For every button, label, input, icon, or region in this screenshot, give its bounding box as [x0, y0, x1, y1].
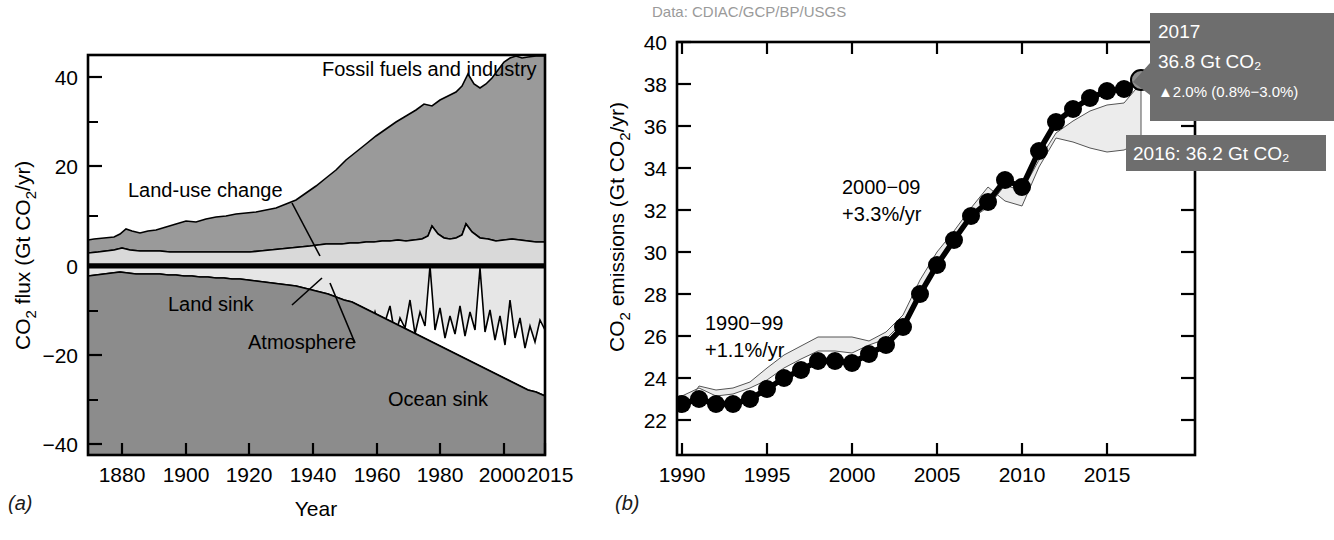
- y-tick-b-0: 22: [644, 409, 667, 432]
- panel-b-y-ticks: [677, 42, 1195, 420]
- label-ocean-sink: Ocean sink: [388, 388, 489, 410]
- panel-a-x-axis-title: Year: [295, 497, 337, 520]
- panel-b-y-tick-labels: 40 38 36 34 32 30 28 26 24 22: [644, 31, 668, 432]
- y-tick-b-6: 34: [644, 157, 668, 180]
- y-tick-a-0: 40: [55, 66, 78, 89]
- y-tick-b-4: 30: [644, 241, 667, 264]
- annotation-2000-09-period: 2000−09: [842, 176, 920, 198]
- x-tick-b-3: 2005: [914, 463, 961, 486]
- panel-a-letter: (a): [8, 492, 32, 515]
- panel-b-letter: (b): [615, 492, 639, 515]
- x-tick-b-1: 1995: [744, 463, 791, 486]
- callout-2016: 2016: 36.2 Gt CO₂: [1126, 135, 1326, 171]
- panel-b-plot-area: [673, 70, 1151, 413]
- y-tick-b-1: 24: [644, 367, 668, 390]
- x-tick-a-2: 1920: [226, 463, 273, 486]
- x-tick-b-0: 1990: [659, 463, 706, 486]
- panel-a-co2-flux: CO2 flux (Gt CO2/yr): [0, 0, 620, 540]
- y-tick-b-8: 38: [644, 73, 667, 96]
- annotation-1990-99-rate: +1.1%/yr: [705, 339, 785, 361]
- x-tick-a-7: 2015: [527, 463, 574, 486]
- annotation-2000-09: 2000−09 +3.3%/yr: [842, 176, 922, 225]
- panel-b-co2-emissions: Data: CDIAC/GCP/BP/USGS CO2 emissions (G…: [610, 0, 1334, 540]
- x-tick-a-1: 1900: [163, 463, 210, 486]
- y-tick-b-3: 28: [644, 283, 667, 306]
- callout-2017-year: 2017: [1158, 21, 1200, 42]
- x-tick-b-2: 2000: [829, 463, 876, 486]
- callout-2017-value: 36.8 Gt CO₂: [1158, 51, 1261, 72]
- x-tick-a-4: 1960: [354, 463, 401, 486]
- x-tick-a-3: 1940: [290, 463, 337, 486]
- annotation-1990-99-period: 1990−99: [705, 312, 783, 334]
- x-tick-a-0: 1880: [99, 463, 146, 486]
- callout-2017-change: ▲2.0% (0.8%−3.0%): [1158, 83, 1298, 100]
- x-tick-b-5: 2015: [1084, 463, 1131, 486]
- uncertainty-band: [682, 83, 1141, 412]
- x-tick-a-5: 1980: [417, 463, 464, 486]
- panel-b-y-axis-title: CO2 emissions (Gt CO2/yr): [610, 102, 633, 352]
- label-land-sink: Land sink: [168, 293, 255, 315]
- panel-b-x-tick-labels: 1990 1995 2000 2005 2010 2015: [659, 463, 1131, 486]
- panel-a-y-axis-title: CO2 flux (Gt CO2/yr): [11, 161, 39, 350]
- y-tick-b-5: 32: [644, 199, 667, 222]
- panel-a-svg: CO2 flux (Gt CO2/yr): [0, 0, 620, 540]
- y-tick-b-7: 36: [644, 115, 667, 138]
- callout-2016-text: 2016: 36.2 Gt CO₂: [1133, 143, 1289, 164]
- data-source-label: Data: CDIAC/GCP/BP/USGS: [652, 3, 846, 20]
- area-fossil-fuels: [88, 56, 545, 253]
- y-tick-a-4: −40: [42, 433, 78, 456]
- label-fossil-fuels: Fossil fuels and industry: [322, 58, 537, 80]
- y-tick-b-9: 40: [644, 31, 667, 54]
- svg-text:CO2 flux (Gt CO2/yr): CO2 flux (Gt CO2/yr): [11, 161, 39, 350]
- y-tick-a-2: 0: [66, 255, 78, 278]
- label-land-use-change: Land-use change: [128, 179, 283, 201]
- y-tick-a-3: −20: [42, 344, 78, 367]
- y-tick-b-2: 26: [644, 325, 667, 348]
- y-tick-a-1: 20: [55, 155, 78, 178]
- annotation-1990-99: 1990−99 +1.1%/yr: [705, 312, 785, 361]
- figure-root: CO2 flux (Gt CO2/yr): [0, 0, 1334, 540]
- callout-2017: 2017 36.8 Gt CO₂ ▲2.0% (0.8%−3.0%): [1133, 13, 1334, 121]
- label-atmosphere: Atmosphere: [248, 331, 356, 353]
- x-tick-a-6: 2000: [479, 463, 526, 486]
- panel-b-svg: Data: CDIAC/GCP/BP/USGS CO2 emissions (G…: [610, 0, 1334, 540]
- panel-a-x-tick-labels: 1880 1900 1920 1940 1960 1980 2000 2015: [99, 463, 574, 486]
- panel-a-y-tick-labels: 40 20 0 −20 −40: [42, 66, 78, 456]
- annotation-2000-09-rate: +3.3%/yr: [842, 203, 922, 225]
- x-tick-b-4: 2010: [999, 463, 1046, 486]
